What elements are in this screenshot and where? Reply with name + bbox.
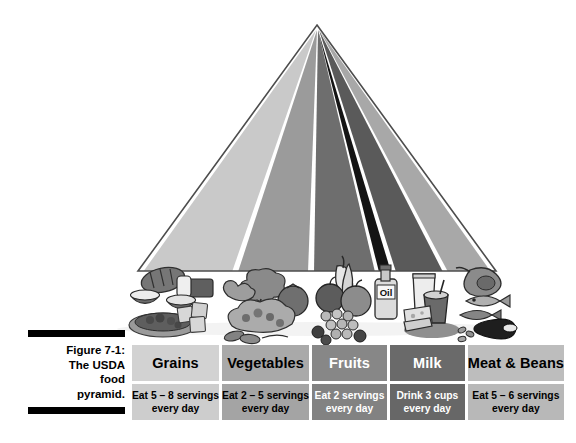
veg-piece-icon [254,309,263,318]
cheese-hole-icon [411,314,415,318]
fish-eye-icon [472,298,476,302]
pasta-piece-icon [156,314,165,323]
figure-caption-line-4: pyramid. [20,387,125,402]
rice-icon [131,290,160,300]
legend-header-fruits: Fruits [312,345,387,381]
apple-icon [316,284,344,312]
legend-body-fruits-line1: Eat 2 servings [315,389,385,402]
veg-piece-icon [276,319,284,327]
legend-body-vegetables: Eat 2 – 5 servings every day [222,384,309,420]
legend-body-grains-line2: every day [152,402,200,415]
legend-header-milk: Milk [390,345,465,381]
legend-column-grains: Grains Eat 5 – 8 servings every day [132,345,219,420]
legend-body-meat-beans: Eat 5 – 6 servings every day [468,384,564,420]
legend-column-fruits: Fruits Eat 2 servings every day [312,345,387,420]
cracker-icon [190,316,206,332]
food-group-legend-table: Grains Eat 5 – 8 servings every day Vege… [132,345,564,420]
legend-body-meat-beans-line1: Eat 5 – 6 servings [472,389,559,402]
legend-body-meat-beans-line2: every day [492,402,540,415]
legend-body-milk-line2: every day [404,402,452,415]
figure-caption-line-3: food [20,372,125,387]
oil-bottle-label-text: Oil [380,287,393,298]
cheese-hole-icon [420,311,424,315]
legend-body-milk-line1: Drink 3 cups [396,389,458,402]
usda-food-pyramid-graphic: Oil [0,0,576,350]
figure-caption: Figure 7-1: The USDA food pyramid. [20,343,125,401]
berry-icon [321,335,331,345]
figure-illustration: Oil [0,0,576,350]
figure-caption-line-2: The USDA [20,358,125,373]
figure-caption-block: Figure 7-1: The USDA food pyramid. [20,330,128,414]
legend-column-meat-beans: Meat & Beans Eat 5 – 6 servings every da… [468,345,564,420]
veg-piece-icon [266,313,274,321]
figure-caption-label: Figure 7-1: [20,343,125,358]
legend-column-vegetables: Vegetables Eat 2 – 5 servings every day [222,345,309,420]
oil-bottle-neck-icon [381,269,390,281]
legend-body-grains: Eat 5 – 8 servings every day [132,384,219,420]
legend-body-fruits: Eat 2 servings every day [312,384,387,420]
legend-column-milk: Milk Drink 3 cups every day [390,345,465,420]
pasta-piece-icon [146,316,154,324]
caption-rule-top [28,330,125,337]
ham-center-icon [477,276,495,290]
legend-body-vegetables-line2: every day [242,402,290,415]
legend-body-fruits-line2: every day [326,402,374,415]
legend-header-grains: Grains [132,345,219,381]
bread-slice-icon [177,276,191,297]
berry-icon [354,330,366,342]
pasta-piece-icon [167,317,175,325]
cereal-icon [167,295,196,305]
legend-body-grains-line1: Eat 5 – 8 servings [132,389,219,402]
steak-fat-icon [503,324,517,332]
milk-surface-icon [413,274,435,278]
caption-rule-bottom [28,407,125,414]
legend-body-milk: Drink 3 cups every day [390,384,465,420]
yogurt-top-icon [424,291,448,299]
veg-piece-icon [242,314,250,322]
legend-header-vegetables: Vegetables [222,345,309,381]
oil-bottle-cap-icon [380,265,391,270]
legend-body-vegetables-line1: Eat 2 – 5 servings [222,389,309,402]
legend-header-meat-beans: Meat & Beans [468,345,564,381]
